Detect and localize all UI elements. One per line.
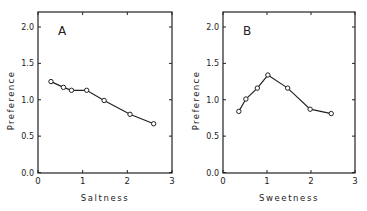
data-point-marker: [308, 107, 312, 111]
x-tick-label: 1: [264, 176, 269, 186]
series-line: [239, 75, 331, 114]
y-tick-label: 0.0: [206, 169, 219, 178]
x-tick-label: 2: [125, 176, 130, 186]
data-point-marker: [49, 79, 53, 83]
panel-label: B: [243, 24, 251, 38]
y-tick-label: 1.0: [206, 96, 219, 105]
data-point-marker: [151, 122, 155, 126]
y-tick-label: 0.0: [21, 169, 34, 178]
x-tick-label: 3: [169, 176, 174, 186]
data-point-marker: [237, 109, 241, 113]
data-point-marker: [255, 86, 259, 90]
x-tick-label: 3: [352, 176, 357, 186]
panel-a: 0.00.51.01.52.00123SaltnessPreferenceA: [6, 12, 175, 203]
data-point-marker: [69, 88, 73, 92]
y-tick-label: 1.0: [21, 96, 34, 105]
panel-b: 0.00.51.01.52.00123SweetnessPreferenceB: [191, 12, 358, 203]
y-tick-label: 0.5: [21, 132, 34, 141]
data-point-marker: [61, 85, 65, 89]
y-axis-label: Preference: [6, 71, 16, 131]
x-tick-label: 2: [308, 176, 313, 186]
data-point-marker: [329, 111, 333, 115]
y-axis-label: Preference: [191, 71, 201, 131]
chart-canvas: 0.00.51.01.52.00123SaltnessPreferenceA 0…: [0, 0, 367, 211]
x-tick-label: 0: [220, 176, 225, 186]
y-tick-label: 1.5: [21, 59, 34, 68]
x-tick-label: 0: [35, 176, 40, 186]
data-point-marker: [285, 86, 289, 90]
data-point-marker: [128, 112, 132, 116]
x-axis-label: Sweetness: [259, 193, 319, 203]
x-axis-label: Saltness: [81, 193, 130, 203]
y-tick-label: 1.5: [206, 59, 219, 68]
x-tick-label: 1: [80, 176, 85, 186]
series-line: [51, 82, 154, 124]
y-tick-label: 2.0: [21, 23, 34, 32]
data-point-marker: [266, 73, 270, 77]
figure: 0.00.51.01.52.00123SaltnessPreferenceA 0…: [0, 0, 367, 211]
data-point-marker: [102, 98, 106, 102]
y-tick-label: 2.0: [206, 23, 219, 32]
y-tick-label: 0.5: [206, 132, 219, 141]
panel-label: A: [58, 24, 67, 38]
data-point-marker: [84, 88, 88, 92]
data-point-marker: [244, 97, 248, 101]
